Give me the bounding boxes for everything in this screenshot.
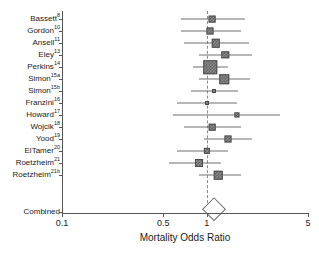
- study-reference-number: 21b: [51, 168, 60, 174]
- x-axis-title: Mortality Odds Ratio: [140, 233, 231, 243]
- study-label-column: Bassett8Gordon10Ansell11Eley13Perkins14S…: [0, 0, 60, 253]
- study-label-bassett-8: Bassett8: [30, 15, 60, 23]
- y-tick: [59, 103, 63, 104]
- study-reference-number: 15b: [51, 84, 60, 90]
- reference-line-or-1: [207, 11, 209, 213]
- odds-ratio-marker: [221, 51, 228, 58]
- odds-ratio-marker: [209, 16, 216, 23]
- x-tick-label: 5: [305, 219, 310, 228]
- y-tick: [59, 31, 63, 32]
- study-label-roetzheim-21b: Roetzheim21b: [13, 171, 60, 179]
- study-name: Ansell: [32, 38, 54, 47]
- study-name: Bassett: [30, 14, 57, 23]
- y-tick: [59, 115, 63, 116]
- study-reference-number: 19: [54, 132, 60, 138]
- study-label-ansell-11: Ansell11: [32, 39, 60, 47]
- y-tick: [59, 79, 63, 80]
- odds-ratio-marker: [195, 159, 203, 167]
- x-tick-label: 0.5: [157, 219, 170, 228]
- odds-ratio-marker: [204, 148, 210, 154]
- combined-label: Combined: [24, 208, 60, 216]
- x-tick: [62, 213, 63, 217]
- y-tick: [59, 139, 63, 140]
- study-name: Gordon: [27, 26, 54, 35]
- x-tick: [163, 213, 164, 217]
- study-name: Perkins: [27, 62, 54, 71]
- y-tick: [59, 55, 63, 56]
- x-tick-label: 1: [204, 219, 209, 228]
- odds-ratio-marker: [209, 124, 216, 131]
- study-name: Roetzheim: [13, 170, 51, 179]
- study-reference-number: 8: [57, 12, 60, 18]
- odds-ratio-marker: [206, 28, 213, 35]
- study-name: Howard: [26, 110, 54, 119]
- study-name: Yood: [36, 134, 54, 143]
- odds-ratio-marker: [220, 74, 230, 84]
- odds-ratio-marker: [212, 89, 216, 93]
- study-name: Eley: [38, 50, 54, 59]
- study-reference-number: 20: [54, 144, 60, 150]
- confidence-interval-line: [173, 115, 280, 116]
- study-label-franzini-16: Franzini16: [25, 99, 60, 107]
- odds-ratio-marker: [224, 136, 231, 143]
- y-tick: [59, 67, 63, 68]
- study-reference-number: 16: [54, 96, 60, 102]
- odds-ratio-marker: [235, 112, 240, 117]
- study-name: Wojcik: [30, 122, 53, 131]
- forest-plot: Bassett8Gordon10Ansell11Eley13Perkins14S…: [0, 0, 319, 253]
- y-axis-line: [62, 11, 63, 213]
- x-tick-label: 0.1: [56, 219, 69, 228]
- y-tick: [59, 19, 63, 20]
- study-reference-number: 18: [54, 120, 60, 126]
- study-label-simon-15b: Simon15b: [28, 87, 60, 95]
- confidence-interval-line: [177, 151, 228, 152]
- study-reference-number: 13: [54, 48, 60, 54]
- y-tick: [59, 43, 63, 44]
- study-reference-number: 15a: [51, 72, 60, 78]
- study-name: Roetzheim: [16, 158, 54, 167]
- y-tick: [59, 127, 63, 128]
- study-reference-number: 10: [54, 24, 60, 30]
- odds-ratio-marker: [204, 60, 218, 74]
- odds-ratio-marker: [214, 171, 223, 180]
- odds-ratio-marker: [211, 39, 220, 48]
- study-reference-number: 14: [54, 60, 60, 66]
- study-label-perkins-14: Perkins14: [27, 63, 60, 71]
- study-name: Simon: [28, 74, 51, 83]
- study-label-eltamer-20: ElTamer20: [25, 147, 60, 155]
- study-label-wojcik-18: Wojcik18: [30, 123, 60, 131]
- study-reference-number: 17: [54, 108, 60, 114]
- study-label-roetzheim-21: Roetzheim21: [16, 159, 60, 167]
- study-name: ElTamer: [25, 146, 54, 155]
- study-name: Simon: [28, 86, 51, 95]
- combined-summary-diamond: [202, 197, 226, 221]
- study-label-howard-17: Howard17: [26, 111, 60, 119]
- study-label-eley-13: Eley13: [38, 51, 60, 59]
- study-name: Franzini: [25, 98, 53, 107]
- x-axis-line: [62, 213, 308, 214]
- study-reference-number: 11: [54, 36, 60, 42]
- y-tick: [59, 91, 63, 92]
- odds-ratio-marker: [205, 101, 209, 105]
- study-reference-number: 21: [54, 156, 60, 162]
- y-tick: [59, 175, 63, 176]
- x-tick: [308, 213, 309, 217]
- x-tick: [207, 213, 208, 217]
- y-tick: [59, 151, 63, 152]
- study-label-simon-15a: Simon15a: [28, 75, 60, 83]
- study-label-yood-19: Yood19: [36, 135, 60, 143]
- study-label-gordon-10: Gordon10: [27, 27, 60, 35]
- y-tick: [59, 163, 63, 164]
